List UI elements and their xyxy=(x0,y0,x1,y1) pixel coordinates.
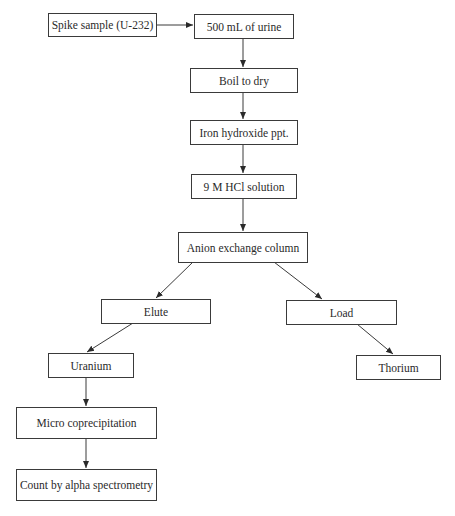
arrow-anion-to-load xyxy=(274,262,322,299)
node-urine: 500 mL of urine xyxy=(194,14,294,39)
arrow-anion-to-elute xyxy=(156,262,193,298)
node-uranium: Uranium xyxy=(48,353,134,378)
arrow-load-to-thorium xyxy=(357,324,393,354)
node-spike-sample: Spike sample (U-232) xyxy=(48,13,157,37)
arrow-elute-to-uranium xyxy=(87,323,133,352)
node-alpha-spectrometry: Count by alpha spectrometry xyxy=(16,469,157,501)
node-anion-exchange: Anion exchange column xyxy=(178,232,308,263)
node-boil-to-dry: Boil to dry xyxy=(190,68,298,93)
node-hcl-solution: 9 M HCl solution xyxy=(191,174,297,199)
node-iron-hydroxide: Iron hydroxide ppt. xyxy=(190,120,298,145)
node-micro-coprecipitation: Micro coprecipitation xyxy=(16,407,157,439)
node-elute: Elute xyxy=(101,299,211,324)
node-thorium: Thorium xyxy=(356,355,441,380)
node-load: Load xyxy=(286,300,397,325)
